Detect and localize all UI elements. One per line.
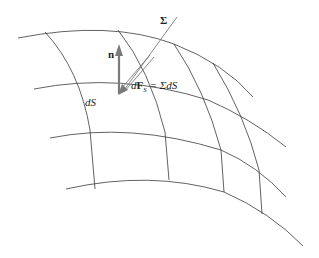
force-label: dFS = ΣdS (131, 79, 178, 94)
stress-tensor-label: Σ (160, 14, 167, 26)
grid-meridian-3 (174, 44, 224, 192)
normal-label: n (108, 48, 114, 60)
grid-meridian-1 (45, 32, 95, 189)
surface-grid (18, 30, 303, 246)
surface-element-label: dS (85, 96, 97, 108)
grid-curve-4 (66, 180, 303, 246)
normal-arrow-icon (115, 44, 123, 56)
surface-stress-diagram: n Σ dFS = ΣdS dS (0, 0, 319, 258)
grid-meridian-2 (118, 30, 169, 180)
